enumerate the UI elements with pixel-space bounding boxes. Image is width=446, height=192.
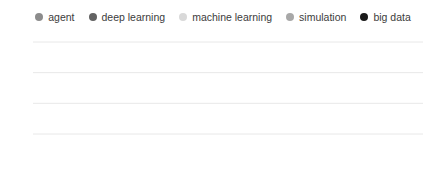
legend-item-simulation[interactable]: simulation <box>286 11 346 23</box>
plot-svg <box>0 26 446 166</box>
legend-dot-icon <box>89 13 97 21</box>
plot-area <box>0 26 446 166</box>
legend-item-big-data[interactable]: big data <box>360 11 410 23</box>
legend-item-deep-learning[interactable]: deep learning <box>89 11 166 23</box>
trends-line-chart: agentdeep learningmachine learningsimula… <box>0 0 446 192</box>
legend-dot-icon <box>35 13 43 21</box>
legend-dot-icon <box>286 13 294 21</box>
legend-label: simulation <box>299 11 346 23</box>
chart-legend: agentdeep learningmachine learningsimula… <box>0 8 446 26</box>
legend-label: machine learning <box>192 11 272 23</box>
legend-item-agent[interactable]: agent <box>35 11 74 23</box>
legend-label: big data <box>373 11 410 23</box>
legend-label: agent <box>48 11 74 23</box>
legend-label: deep learning <box>102 11 166 23</box>
legend-item-machine-learning[interactable]: machine learning <box>179 11 272 23</box>
gridlines-group <box>33 42 423 134</box>
legend-dot-icon <box>360 13 368 21</box>
legend-dot-icon <box>179 13 187 21</box>
